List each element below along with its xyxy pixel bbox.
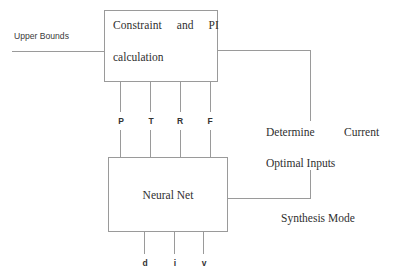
block-diagram: Constraint and PI calculation Neural Net…	[0, 0, 407, 277]
upper-bounds-label: Upper Bounds	[14, 31, 69, 41]
annotation-determine: Determine	[266, 126, 315, 138]
annotation-synthesis-mode: Synthesis Mode	[281, 212, 355, 224]
signal-label-t: T	[144, 116, 158, 126]
output-label-v: v	[197, 258, 211, 268]
annotation-current: Current	[344, 126, 379, 138]
neural-net-block: Neural Net	[108, 157, 228, 232]
output-label-i: i	[168, 258, 182, 268]
constraint-block-line-2: calculation	[113, 50, 209, 64]
signal-label-p: P	[114, 116, 128, 126]
signal-label-r: R	[173, 116, 187, 126]
output-label-d: d	[138, 258, 152, 268]
neural-net-label: Neural Net	[143, 189, 194, 201]
annotation-optimal-inputs: Optimal Inputs	[266, 157, 335, 169]
signal-label-f: F	[203, 116, 217, 126]
constraint-pi-calculation-block: Constraint and PI calculation	[104, 10, 218, 82]
constraint-block-line-1: Constraint and PI	[113, 18, 209, 32]
